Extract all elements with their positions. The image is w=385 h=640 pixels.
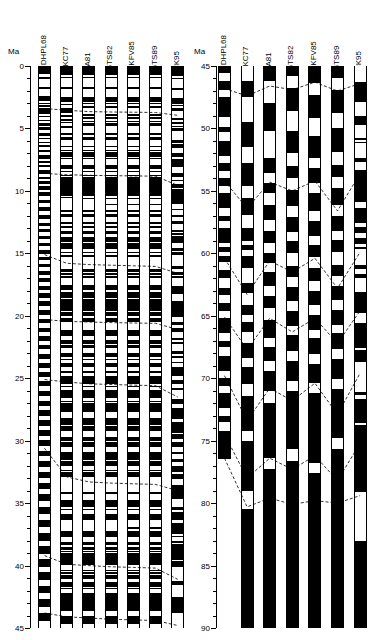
polarity-chron-normal <box>287 391 298 450</box>
polarity-chron-normal <box>172 512 183 520</box>
polarity-chron-normal <box>219 303 230 310</box>
polarity-chron-normal <box>128 146 139 148</box>
polarity-chron-normal <box>172 474 183 479</box>
polarity-chron-normal <box>106 345 117 348</box>
polarity-chron-normal <box>39 236 50 240</box>
polarity-chron-normal <box>355 425 366 491</box>
polarity-chron-normal <box>106 237 117 242</box>
polarity-chron-normal <box>61 509 72 510</box>
axis-tick-minor <box>27 166 30 167</box>
polarity-chron-normal <box>106 214 117 217</box>
polarity-chron-normal <box>83 514 94 520</box>
polarity-chron-normal <box>106 570 117 571</box>
axis-tick-minor <box>213 328 216 329</box>
polarity-chron-normal <box>355 142 366 143</box>
polarity-chron-normal <box>128 403 139 412</box>
axis-tick-minor <box>213 453 216 454</box>
polarity-chron-normal <box>61 386 72 387</box>
polarity-chron-normal <box>355 541 366 628</box>
polarity-chron-normal <box>332 265 343 276</box>
polarity-chron-normal <box>219 356 230 371</box>
polarity-chron-normal <box>61 210 72 212</box>
polarity-chron-normal <box>61 231 72 234</box>
polarity-chron-normal <box>172 442 183 447</box>
polarity-chron-normal <box>150 390 161 397</box>
axis-tick-label: 55 <box>188 186 210 195</box>
polarity-chron-normal <box>83 171 94 172</box>
polarity-chron-normal <box>106 204 117 205</box>
polarity-chron-normal <box>150 318 161 323</box>
polarity-chron-normal <box>355 247 366 250</box>
polarity-chron-normal <box>332 165 343 177</box>
axis-tick-major <box>25 128 30 129</box>
axis-tick-minor <box>27 391 30 392</box>
axis-tick-minor <box>213 116 216 117</box>
polarity-chron-normal <box>172 485 183 499</box>
polarity-chron-normal <box>39 108 50 114</box>
axis-tick-label: 45 <box>2 624 24 633</box>
polarity-chron-normal <box>61 575 72 579</box>
polarity-chron-normal <box>83 123 94 125</box>
polarity-chron-normal <box>39 381 50 386</box>
polarity-chron-normal <box>309 245 320 257</box>
polarity-chron-normal <box>172 184 183 188</box>
polarity-chron-normal <box>150 359 161 360</box>
polarity-chron-normal <box>61 318 72 323</box>
polarity-chron-normal <box>332 66 343 78</box>
polarity-chron-normal <box>83 198 94 199</box>
polarity-chron-normal <box>128 461 139 466</box>
polarity-chron-normal <box>61 243 72 249</box>
polarity-chron-normal <box>83 401 94 402</box>
polarity-chron-normal <box>128 514 139 520</box>
polarity-chron-normal <box>83 175 94 176</box>
polarity-column-GTS89 <box>149 66 162 628</box>
polarity-chron-normal <box>61 542 72 545</box>
axis-tick-label: 0 <box>2 62 24 71</box>
polarity-chron-normal <box>61 472 72 477</box>
polarity-chron-normal <box>128 418 139 425</box>
axis-tick-major <box>25 253 30 254</box>
polarity-chron-normal <box>242 81 253 97</box>
polarity-chron-normal <box>83 231 94 234</box>
polarity-chron-normal <box>83 492 94 495</box>
polarity-chron-normal <box>106 616 117 623</box>
polarity-chron-normal <box>128 204 139 205</box>
polarity-chron-normal <box>172 286 183 294</box>
polarity-chron-normal <box>128 150 139 151</box>
polarity-chron-normal <box>172 108 183 111</box>
polarity-chron-normal <box>106 353 117 357</box>
polarity-chron-normal <box>106 386 117 387</box>
polarity-column-GTS82 <box>105 66 118 628</box>
polarity-chron-normal <box>128 175 139 176</box>
polarity-chron-normal <box>61 330 72 336</box>
polarity-chron-normal <box>128 255 139 257</box>
polarity-chron-normal <box>172 338 183 340</box>
polarity-chron-normal <box>150 330 161 336</box>
polarity-chron-normal <box>172 118 183 119</box>
polarity-chron-normal <box>83 269 94 273</box>
polarity-chron-normal <box>83 137 94 140</box>
axis-tick-minor <box>213 528 216 529</box>
axis-tick-minor <box>213 428 216 429</box>
polarity-chron-normal <box>128 570 139 571</box>
polarity-chron-normal <box>61 312 72 316</box>
polarity-chron-normal <box>172 322 183 325</box>
axis-tick-major <box>211 441 216 442</box>
polarity-chron-normal <box>128 401 139 402</box>
polarity-chron-normal <box>287 335 298 351</box>
polarity-chron-normal <box>106 285 117 289</box>
polarity-chron-normal <box>83 243 94 249</box>
polarity-chron-normal <box>150 292 161 298</box>
polarity-chron-normal <box>128 547 139 551</box>
polarity-chron-normal <box>83 273 94 275</box>
polarity-chron-normal <box>83 442 94 447</box>
polarity-chron-normal <box>242 198 253 214</box>
polarity-chron-normal <box>172 128 183 131</box>
polarity-chron-normal <box>309 66 320 83</box>
polarity-chron-normal <box>219 431 230 460</box>
polarity-chron-normal <box>150 269 161 273</box>
polarity-chron-normal <box>150 542 161 545</box>
polarity-chron-normal <box>150 426 161 431</box>
polarity-chron-normal <box>106 472 117 477</box>
polarity-column-BKFV85 <box>127 66 140 628</box>
